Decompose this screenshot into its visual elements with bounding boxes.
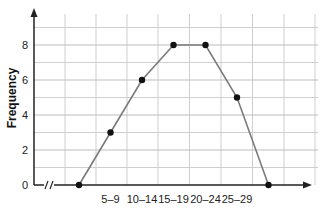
x-tick-label: 10–14 [127, 193, 158, 205]
data-point [76, 182, 82, 188]
y-tick-labels: 02468 [22, 39, 28, 191]
data-point [234, 94, 240, 100]
data-point [107, 129, 113, 135]
data-point [202, 42, 208, 48]
x-tick-label: 25–29 [222, 193, 253, 205]
y-tick-label: 8 [22, 39, 28, 51]
x-tick-labels: 5–910–1415–1920–2425–29 [101, 193, 252, 205]
y-axis-label: Frequency [5, 67, 19, 128]
frequency-polygon-chart: 02468 5–910–1415–1920–2425–29 Frequency [0, 0, 323, 208]
data-point [170, 42, 176, 48]
data-point [265, 182, 271, 188]
data-point [139, 77, 145, 83]
y-tick-label: 2 [22, 144, 28, 156]
x-tick-label: 15–19 [158, 193, 189, 205]
axes [31, 8, 313, 189]
grid [34, 14, 318, 185]
y-tick-label: 4 [22, 109, 28, 121]
y-tick-label: 0 [22, 179, 28, 191]
axis-break-icon [44, 181, 54, 189]
y-tick-label: 6 [22, 74, 28, 86]
x-tick-label: 5–9 [101, 193, 119, 205]
y-axis-arrow-icon [31, 8, 38, 17]
x-axis-arrow-icon [303, 182, 312, 189]
x-tick-label: 20–24 [190, 193, 221, 205]
